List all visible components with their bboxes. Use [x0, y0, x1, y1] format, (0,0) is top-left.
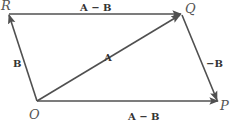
vector-label-op: A − B — [127, 111, 160, 122]
point-label-q: Q — [185, 1, 196, 16]
vector-diagram: R Q O P A − B B A −B A − B — [0, 0, 230, 127]
point-label-o: O — [29, 107, 40, 122]
vector-label-oq: A — [103, 52, 112, 63]
vector-label-rq: A − B — [79, 2, 112, 13]
vector-label-or: B — [13, 58, 21, 69]
point-label-r: R — [0, 0, 11, 13]
point-label-p: P — [219, 98, 229, 113]
vector-label-qp: −B — [206, 58, 223, 69]
